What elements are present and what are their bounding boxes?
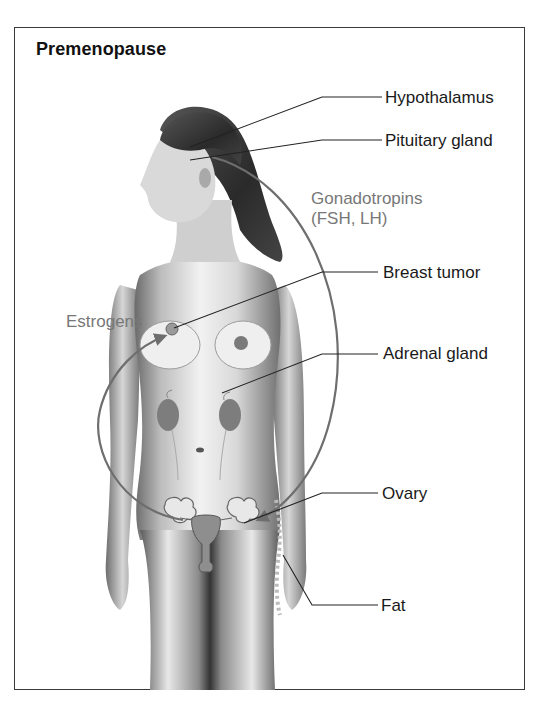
nipple bbox=[234, 336, 248, 350]
label-hypothalamus: Hypothalamus bbox=[385, 89, 494, 106]
left-arm bbox=[106, 285, 140, 610]
navel bbox=[196, 448, 204, 453]
label-fat: Fat bbox=[381, 597, 406, 614]
label-adrenal-gland: Adrenal gland bbox=[383, 345, 488, 362]
right-kidney bbox=[219, 399, 241, 431]
label-pituitary-gland: Pituitary gland bbox=[385, 132, 493, 149]
label-ovary: Ovary bbox=[382, 485, 427, 502]
label-breast-tumor: Breast tumor bbox=[383, 264, 480, 281]
label-estrogens: Estrogens bbox=[66, 312, 143, 332]
gonadotropins-line1: Gonadotropins bbox=[311, 189, 423, 209]
ear bbox=[199, 168, 211, 188]
left-kidney bbox=[157, 399, 179, 431]
figure-title: Premenopause bbox=[36, 39, 166, 60]
gonadotropins-line2: (FSH, LH) bbox=[311, 209, 423, 229]
torso bbox=[135, 258, 281, 540]
tumor bbox=[166, 323, 178, 335]
label-gonadotropins: Gonadotropins (FSH, LH) bbox=[311, 189, 423, 230]
